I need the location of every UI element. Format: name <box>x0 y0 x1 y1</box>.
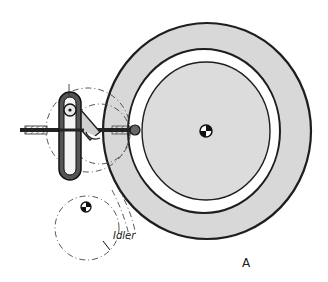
idler-label: Idler <box>113 230 135 241</box>
pivot-icon <box>64 104 76 116</box>
idler-leader-line <box>103 241 110 250</box>
slotted-link <box>59 84 81 180</box>
ball-end <box>130 125 140 135</box>
center-spindle-icon <box>200 125 212 137</box>
view-label: A <box>242 256 250 270</box>
idler-center-icon <box>81 202 91 212</box>
mechanism-diagram <box>0 0 328 282</box>
